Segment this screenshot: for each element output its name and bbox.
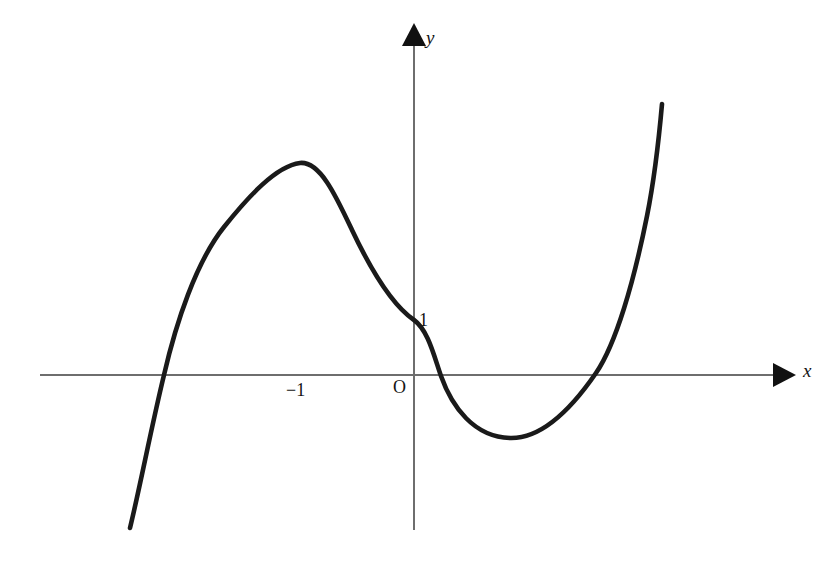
y-tick-label-1: 1 xyxy=(419,311,428,329)
x-tick-label-minus-1: −1 xyxy=(286,381,305,399)
origin-label: O xyxy=(393,378,406,396)
graph-figure: y x 1 O −1 xyxy=(0,0,834,564)
y-axis-label: y xyxy=(426,28,434,47)
cubic-curve xyxy=(130,104,662,528)
coordinate-plane-svg xyxy=(0,0,834,564)
x-axis-label: x xyxy=(803,361,811,380)
x-axis-arrowhead-icon xyxy=(773,363,796,387)
y-axis-arrowhead-icon xyxy=(402,23,426,46)
